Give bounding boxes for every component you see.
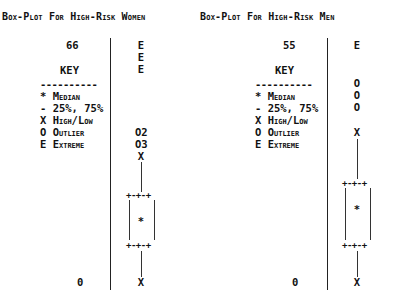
women-high-marker: X <box>134 150 148 162</box>
key-label: Median <box>53 90 80 102</box>
key-label: 25%, 75% <box>268 102 319 114</box>
women-extreme-marker: E <box>134 63 148 75</box>
women-extreme-marker: E <box>134 39 148 51</box>
women-key-divider: ---------- <box>40 78 97 90</box>
women-median-marker: * <box>134 215 148 227</box>
key-symbol: X <box>40 114 46 126</box>
key-label: High/Low <box>268 114 308 126</box>
men-outlier-marker: O <box>350 101 364 113</box>
men-key-divider: ---------- <box>255 78 312 90</box>
men-axis-min-label: 0 <box>292 276 298 288</box>
key-symbol: * <box>255 90 261 102</box>
women-axis-line <box>110 38 111 290</box>
key-label: Extreme <box>53 138 85 150</box>
men-key-row-quartile: - 25%, 75% <box>255 102 318 114</box>
women-key-row-quartile: - 25%, 75% <box>40 102 103 114</box>
women-upper-whisker <box>141 162 142 192</box>
women-box-top: +-+-+ <box>126 190 151 200</box>
women-box-right-side <box>154 200 155 240</box>
men-lower-whisker <box>357 251 358 277</box>
women-chart-title: Box-Plot For High-Risk Women <box>2 11 145 22</box>
women-key-row-outlier: O Outlier <box>40 126 84 138</box>
women-key-row-extreme: E Extreme <box>40 138 84 150</box>
key-label: Extreme <box>268 138 300 150</box>
women-key-row-median: * Median <box>40 90 80 102</box>
women-axis-min-label: 0 <box>77 276 83 288</box>
men-low-marker: X <box>350 276 364 288</box>
men-key-header: KEY <box>275 64 294 76</box>
key-symbol: O <box>255 126 261 138</box>
men-outlier-marker: O <box>350 89 364 101</box>
men-upper-whisker <box>357 139 358 179</box>
men-axis-max-label: 55 <box>283 39 296 51</box>
women-axis-max-label: 66 <box>66 39 79 51</box>
men-outlier-marker: O <box>350 77 364 89</box>
key-symbol: * <box>40 90 46 102</box>
key-symbol: E <box>255 138 261 150</box>
key-label: Outlier <box>268 126 300 138</box>
men-box-right-side <box>370 188 371 240</box>
women-lower-whisker <box>141 251 142 277</box>
key-label: High/Low <box>53 114 93 126</box>
key-symbol: O <box>40 126 46 138</box>
women-low-marker: X <box>134 276 148 288</box>
men-high-marker: X <box>350 126 364 138</box>
men-chart-title: Box-Plot For High-Risk Men <box>200 11 335 22</box>
women-box-bottom: +-+-+ <box>126 240 151 250</box>
men-box-top: +-+-+ <box>342 178 367 188</box>
key-symbol: E <box>40 138 46 150</box>
key-label: 25%, 75% <box>53 102 104 114</box>
men-box-left-side <box>345 188 346 240</box>
women-box-left-side <box>129 200 130 240</box>
men-extreme-marker: E <box>350 39 364 51</box>
men-key-row-extreme: E Extreme <box>255 138 299 150</box>
men-median-marker: * <box>350 203 364 215</box>
men-key-row-outlier: O Outlier <box>255 126 299 138</box>
men-key-row-highlow: X High/Low <box>255 114 308 126</box>
key-symbol: X <box>255 114 261 126</box>
women-extreme-marker: E <box>134 51 148 63</box>
women-outlier-marker: O2 <box>135 126 148 138</box>
women-outlier-marker: O3 <box>135 138 148 150</box>
men-axis-line <box>327 38 328 290</box>
men-box-bottom: +-+-+ <box>342 240 367 250</box>
women-key-row-highlow: X High/Low <box>40 114 93 126</box>
key-label: Median <box>268 90 295 102</box>
key-symbol: - <box>40 102 46 114</box>
key-label: Outlier <box>53 126 85 138</box>
men-key-row-median: * Median <box>255 90 295 102</box>
key-symbol: - <box>255 102 261 114</box>
women-key-header: KEY <box>60 64 79 76</box>
